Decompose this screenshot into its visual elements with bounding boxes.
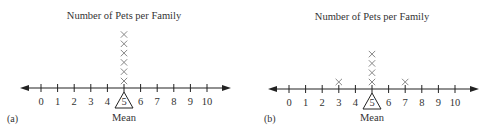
tick-label: 8	[419, 97, 424, 108]
dot-plots-figure: Number of Pets per Family012345678910Mea…	[0, 0, 497, 134]
x-marker-icon	[369, 79, 375, 85]
dot-plot-b: Number of Pets per Family012345678910Mea…	[264, 11, 479, 125]
figure: Number of Pets per Family012345678910Mea…	[0, 0, 497, 134]
tick-label: 4	[353, 97, 359, 108]
x-marker-icon	[121, 59, 127, 65]
tick-label: 3	[336, 97, 341, 108]
tick-label: 2	[72, 96, 77, 107]
arrow-right-icon	[470, 86, 479, 92]
x-marker-icon	[121, 69, 127, 75]
mean-label: Mean	[360, 112, 385, 123]
chart-title: Number of Pets per Family	[67, 10, 182, 21]
tick-label: 10	[202, 96, 213, 107]
x-marker-icon	[369, 70, 375, 76]
x-marker-icon	[336, 79, 342, 85]
tick-label: 10	[450, 97, 461, 108]
tick-label: 5	[121, 96, 126, 107]
tick-label: 2	[320, 97, 325, 108]
tick-label: 0	[38, 96, 43, 107]
tick-label: 9	[436, 97, 441, 108]
tick-label: 1	[303, 97, 308, 108]
x-marker-icon	[121, 78, 127, 84]
x-marker-icon	[121, 31, 127, 37]
panel-label: (a)	[7, 113, 18, 125]
tick-label: 1	[55, 96, 60, 107]
x-marker-icon	[121, 41, 127, 47]
x-marker-icon	[369, 60, 375, 66]
tick-label: 9	[188, 96, 193, 107]
tick-label: 3	[88, 96, 93, 107]
tick-label: 7	[155, 96, 160, 107]
panel-label: (b)	[264, 113, 276, 125]
tick-label: 5	[369, 97, 374, 108]
x-marker-icon	[121, 50, 127, 56]
chart-title: Number of Pets per Family	[315, 11, 430, 22]
tick-label: 8	[171, 96, 176, 107]
tick-label: 7	[403, 97, 408, 108]
tick-label: 4	[105, 96, 111, 107]
x-marker-icon	[402, 79, 408, 85]
dot-plot-a: Number of Pets per Family012345678910Mea…	[7, 10, 231, 125]
mean-label: Mean	[112, 112, 137, 123]
arrow-left-icon	[268, 86, 277, 92]
arrow-left-icon	[20, 85, 29, 91]
x-marker-icon	[369, 51, 375, 57]
tick-label: 6	[386, 97, 391, 108]
arrow-right-icon	[222, 85, 231, 91]
tick-label: 0	[286, 97, 291, 108]
tick-label: 6	[138, 96, 143, 107]
